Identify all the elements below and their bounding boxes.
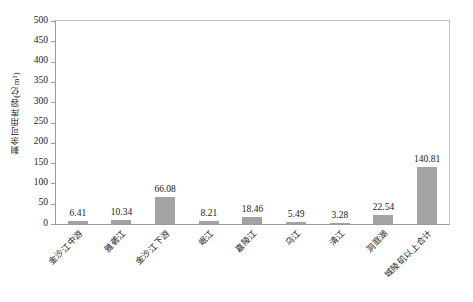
bar: [199, 221, 219, 224]
y-axis-tick-label: 200: [34, 136, 48, 147]
x-axis-labels: 金沙江中游雅砻江金沙江下游岷江嘉陵江乌江清江洞庭湖城陵矶以上合计: [56, 226, 449, 302]
x-axis-label-slot: 嘉陵江: [231, 226, 275, 302]
y-axis-tick-label: 500: [34, 15, 48, 26]
bar-group: 6.41: [56, 21, 100, 224]
x-axis-category-label: 清江: [327, 228, 347, 248]
x-axis-category-label: 嘉陵江: [233, 228, 259, 254]
x-axis-label-slot: 乌江: [274, 226, 318, 302]
x-axis-label-slot: 金沙江下游: [143, 226, 187, 302]
y-axis-tick-label: 50: [39, 197, 49, 208]
bar: [417, 167, 437, 224]
bar-value-label: 5.49: [288, 209, 305, 220]
bar-value-label: 8.21: [201, 208, 218, 219]
bar-value-label: 18.46: [242, 204, 263, 215]
y-axis-tick-label: 100: [34, 177, 48, 188]
y-axis-ticks: 500450400350300250200150100500: [0, 20, 55, 225]
y-axis-tick-label: 400: [34, 55, 48, 66]
x-axis-category-label: 金沙江中游: [46, 228, 85, 267]
y-axis-tick-label: 450: [34, 35, 48, 46]
bar-value-label: 10.34: [111, 207, 132, 218]
bar-group: 8.21: [187, 21, 231, 224]
x-axis-label-slot: 金沙江中游: [56, 226, 100, 302]
bar: [286, 222, 306, 224]
bar-value-label: 66.08: [154, 184, 175, 195]
bar: [155, 197, 175, 224]
bar: [111, 220, 131, 224]
bar-group: 3.28: [318, 21, 362, 224]
bar-group: 140.81: [405, 21, 449, 224]
y-axis-tick-label: 350: [34, 75, 48, 86]
x-axis-category-label: 洞庭湖: [364, 228, 390, 254]
x-axis-label-slot: 清江: [318, 226, 362, 302]
y-axis-tick-label: 250: [34, 116, 48, 127]
bar-value-label: 3.28: [332, 210, 349, 221]
y-axis-tick-label: 300: [34, 96, 48, 107]
x-axis-label-slot: 城陵矶以上合计: [405, 226, 449, 302]
bar: [373, 215, 393, 224]
bar-value-label: 140.81: [414, 154, 440, 165]
x-axis-category-label: 岷江: [196, 228, 216, 248]
x-axis-category-label: 雅砻江: [102, 228, 128, 254]
bar-group: 18.46: [231, 21, 275, 224]
bar: [242, 217, 262, 224]
bar-chart: 剩余可用库容(亿m³) 5004504003503002502001501005…: [0, 0, 473, 302]
bar: [68, 221, 88, 224]
bar-value-label: 22.54: [373, 202, 394, 213]
bar-group: 22.54: [362, 21, 406, 224]
y-axis-tick-label: 150: [34, 157, 48, 168]
bar-group: 5.49: [274, 21, 318, 224]
bars-layer: 6.4110.3466.088.2118.465.493.2822.54140.…: [56, 21, 449, 224]
bar-group: 10.34: [100, 21, 144, 224]
bar-value-label: 6.41: [70, 208, 87, 219]
x-axis-label-slot: 岷江: [187, 226, 231, 302]
y-axis-tick-label: 0: [43, 218, 48, 229]
x-axis-category-label: 乌江: [283, 228, 303, 248]
bar-group: 66.08: [143, 21, 187, 224]
bar: [330, 223, 350, 225]
